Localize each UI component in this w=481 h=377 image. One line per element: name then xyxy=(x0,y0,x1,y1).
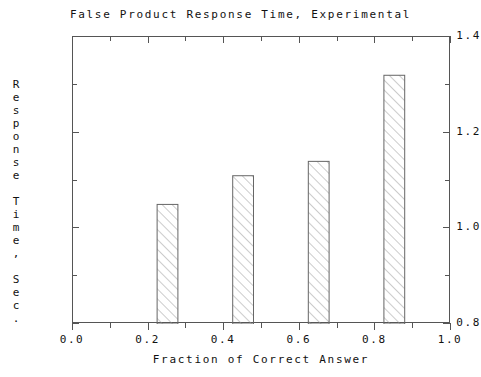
plot-area xyxy=(72,36,450,323)
y-axis-title-char: S xyxy=(8,273,24,286)
x-tick-minor-top xyxy=(110,36,111,41)
x-tick-label: 0.8 xyxy=(344,333,404,346)
x-tick-label: 1.0 xyxy=(420,333,480,346)
x-tick-major xyxy=(450,323,451,330)
bar xyxy=(384,75,405,324)
x-tick-label: 0.6 xyxy=(269,333,329,346)
x-tick-major-top xyxy=(223,36,224,43)
chart-container: False Product Response Time, Experimenta… xyxy=(0,0,481,377)
y-tick-major xyxy=(72,323,79,324)
x-tick-major xyxy=(299,323,300,330)
x-tick-minor-top xyxy=(337,36,338,41)
y-tick-minor-right xyxy=(445,275,450,276)
x-tick-label: 0.0 xyxy=(42,333,102,346)
y-axis-title-char: m xyxy=(8,221,24,234)
y-axis-title-char: s xyxy=(8,156,24,169)
x-tick-minor xyxy=(110,323,111,328)
chart-title: False Product Response Time, Experimenta… xyxy=(0,8,481,21)
y-axis-title-char: R xyxy=(8,78,24,91)
x-tick-minor-top xyxy=(261,36,262,41)
y-axis-title-char xyxy=(8,182,24,195)
y-tick-label: 0.8 xyxy=(415,316,481,329)
y-axis-title-char: i xyxy=(8,208,24,221)
x-tick-minor xyxy=(412,323,413,328)
x-tick-minor-top xyxy=(185,36,186,41)
x-tick-minor xyxy=(337,323,338,328)
y-tick-major xyxy=(72,132,79,133)
y-tick-major xyxy=(72,227,79,228)
x-tick-major xyxy=(72,323,73,330)
x-tick-minor xyxy=(261,323,262,328)
y-axis-title-char: p xyxy=(8,117,24,130)
y-axis-title-char: o xyxy=(8,130,24,143)
x-tick-label: 0.4 xyxy=(193,333,253,346)
x-tick-major xyxy=(148,323,149,330)
bar xyxy=(308,161,329,324)
y-axis-title-char: e xyxy=(8,234,24,247)
y-axis-title-char: e xyxy=(8,91,24,104)
x-tick-major-top xyxy=(148,36,149,43)
bar xyxy=(157,204,178,324)
y-axis-title: Response Time, Sec. xyxy=(8,78,24,325)
y-axis-title-char: n xyxy=(8,143,24,156)
y-axis-title-char: e xyxy=(8,286,24,299)
y-axis-title-char: T xyxy=(8,195,24,208)
y-axis-title-char: e xyxy=(8,169,24,182)
y-axis-title-char xyxy=(8,260,24,273)
x-tick-minor xyxy=(185,323,186,328)
y-axis-title-char: s xyxy=(8,104,24,117)
x-tick-major-top xyxy=(374,36,375,43)
x-axis-title: Fraction of Correct Answer xyxy=(72,353,450,366)
x-tick-label: 0.2 xyxy=(118,333,178,346)
y-axis-title-char: c xyxy=(8,299,24,312)
x-tick-major xyxy=(374,323,375,330)
y-tick-minor xyxy=(72,275,77,276)
y-axis-title-char: , xyxy=(8,247,24,260)
y-tick-major xyxy=(72,36,79,37)
y-tick-minor xyxy=(72,180,77,181)
x-tick-minor-top xyxy=(412,36,413,41)
x-tick-major xyxy=(223,323,224,330)
y-tick-label: 1.2 xyxy=(415,125,481,138)
y-axis-title-char: . xyxy=(8,312,24,325)
x-tick-major-top xyxy=(450,36,451,43)
x-tick-major-top xyxy=(72,36,73,43)
y-tick-minor-right xyxy=(445,84,450,85)
y-tick-minor xyxy=(72,84,77,85)
x-tick-major-top xyxy=(299,36,300,43)
bars-layer xyxy=(73,37,451,324)
y-tick-label: 1.0 xyxy=(415,220,481,233)
y-tick-minor-right xyxy=(445,180,450,181)
y-tick-label: 1.4 xyxy=(415,29,481,42)
bar xyxy=(233,176,254,324)
